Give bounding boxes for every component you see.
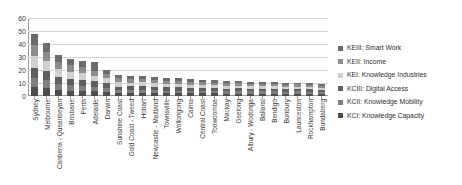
stacked-bar[interactable] xyxy=(103,70,110,96)
x-axis-category-label: Canberra - Queanbeyan xyxy=(55,99,62,169)
x-label-slot: Gold Coast - Tweed xyxy=(125,99,137,183)
x-label-slot: Sydney xyxy=(29,99,41,183)
bar-segment xyxy=(55,77,62,84)
x-axis-category-label: Wollongong xyxy=(175,99,182,133)
x-axis-category-label: Newcastle - Maitland xyxy=(151,99,158,159)
y-axis-tick-label: 20 xyxy=(2,67,26,74)
bar-slot xyxy=(304,18,316,96)
bar-slot xyxy=(137,18,149,96)
stacked-bar[interactable] xyxy=(211,80,218,96)
x-label-slot: Toowoomba xyxy=(208,99,220,183)
x-axis-category-label: Rockhampton xyxy=(306,99,313,139)
stacked-bar[interactable] xyxy=(247,82,254,96)
stacked-bar[interactable] xyxy=(175,78,182,96)
x-axis-category-label: Launceston xyxy=(294,99,301,133)
x-label-slot: Hobart xyxy=(137,99,149,183)
legend-item[interactable]: KCII: Knowledge Mobility xyxy=(338,98,460,106)
stacked-bar[interactable] xyxy=(139,76,146,96)
bar-segment xyxy=(43,61,50,71)
stacked-bar[interactable] xyxy=(115,75,122,96)
bar-slot xyxy=(149,18,161,96)
stacked-bar[interactable] xyxy=(318,84,325,96)
bar-segment xyxy=(43,43,50,52)
x-axis-category-label: Adelaide xyxy=(91,99,98,124)
bar-slot xyxy=(172,18,184,96)
legend-item[interactable]: KEII: Income xyxy=(338,58,460,66)
x-axis-category-label: Brisbane xyxy=(67,99,74,125)
y-axis-tick-label: 0 xyxy=(2,93,26,100)
x-label-slot: Bunbury xyxy=(280,99,292,183)
x-axis-category-label: Cairns xyxy=(187,99,194,118)
stacked-bar[interactable] xyxy=(199,80,206,96)
stacked-bar[interactable] xyxy=(271,82,278,96)
x-axis-category-label: Albury - Wodonga xyxy=(247,99,254,151)
stacked-bar-chart: 6050403020100 SydneyMelbourneCanberra - … xyxy=(0,0,462,185)
x-axis-category-labels: SydneyMelbourneCanberra - QueanbeyanBris… xyxy=(29,99,328,183)
x-axis-category-label: Bendigo xyxy=(271,99,278,123)
x-axis-category-label: Mackay xyxy=(223,99,230,121)
x-axis-category-label: Hobart xyxy=(139,99,146,119)
legend-item-label: KCIII: Digital Access xyxy=(347,85,408,93)
x-axis-category-label: Ballarat xyxy=(259,99,266,121)
x-label-slot: Central Coast xyxy=(196,99,208,183)
x-label-slot: Ballarat xyxy=(256,99,268,183)
x-axis-category-label: Darwin xyxy=(103,99,110,119)
x-label-slot: Melbourne xyxy=(41,99,53,183)
stacked-bar[interactable] xyxy=(91,62,98,96)
chart-legend: KEIII: Smart WorkKEII: IncomeKEI: Knowle… xyxy=(338,44,460,125)
stacked-bar[interactable] xyxy=(306,83,313,96)
stacked-bar[interactable] xyxy=(187,79,194,96)
bar-slot xyxy=(53,18,65,96)
x-axis-category-label: Sydney xyxy=(31,99,38,121)
legend-item[interactable]: KEIII: Smart Work xyxy=(338,44,460,52)
stacked-bar[interactable] xyxy=(235,81,242,96)
x-label-slot: Bundaberg xyxy=(316,99,328,183)
bar-slot xyxy=(29,18,41,96)
x-axis-category-label: Bunbury xyxy=(282,99,289,123)
stacked-bar[interactable] xyxy=(43,43,50,96)
legend-swatch-icon xyxy=(338,100,343,105)
bar-slot xyxy=(280,18,292,96)
bar-slot xyxy=(316,18,328,96)
bar-slot xyxy=(208,18,220,96)
stacked-bar[interactable] xyxy=(55,55,62,96)
stacked-bar[interactable] xyxy=(127,76,134,96)
x-label-slot: Mackay xyxy=(220,99,232,183)
stacked-bar[interactable] xyxy=(282,83,289,96)
bar-segment xyxy=(67,59,74,66)
bar-segment xyxy=(67,72,74,79)
x-axis-category-label: Central Coast xyxy=(199,99,206,139)
bar-segment xyxy=(31,78,38,86)
legend-item[interactable]: KEI: Knowledge Industries xyxy=(338,71,460,79)
stacked-bar[interactable] xyxy=(223,81,230,96)
legend-item-label: KEII: Income xyxy=(347,58,386,66)
bar-slot xyxy=(160,18,172,96)
bar-segment xyxy=(55,62,62,69)
y-axis-tick-label: 50 xyxy=(2,28,26,35)
bar-slot xyxy=(113,18,125,96)
bar-series-container xyxy=(29,18,328,96)
stacked-bar[interactable] xyxy=(163,78,170,96)
x-axis-category-label: Geelong xyxy=(235,99,242,124)
stacked-bar[interactable] xyxy=(67,59,74,96)
bar-slot xyxy=(292,18,304,96)
x-axis-category-label: Melbourne xyxy=(43,99,50,130)
stacked-bar[interactable] xyxy=(31,34,38,96)
legend-item[interactable]: KCI: Knowledge Capacity xyxy=(338,112,460,120)
x-axis-category-label: Perth xyxy=(79,99,86,115)
legend-swatch-icon xyxy=(338,113,343,118)
stacked-bar[interactable] xyxy=(151,77,158,96)
legend-item[interactable]: KCIII: Digital Access xyxy=(338,85,460,93)
stacked-bar[interactable] xyxy=(294,83,301,96)
legend-item-label: KEIII: Smart Work xyxy=(347,44,401,52)
legend-item-label: KEI: Knowledge Industries xyxy=(347,71,427,79)
stacked-bar[interactable] xyxy=(259,82,266,96)
x-label-slot: Bendigo xyxy=(268,99,280,183)
bar-segment xyxy=(91,62,98,70)
x-axis-category-label: Toowoomba xyxy=(211,99,218,134)
bar-slot xyxy=(77,18,89,96)
x-label-slot: Albury - Wodonga xyxy=(244,99,256,183)
x-label-slot: Geelong xyxy=(232,99,244,183)
bar-slot xyxy=(65,18,77,96)
stacked-bar[interactable] xyxy=(79,61,86,96)
